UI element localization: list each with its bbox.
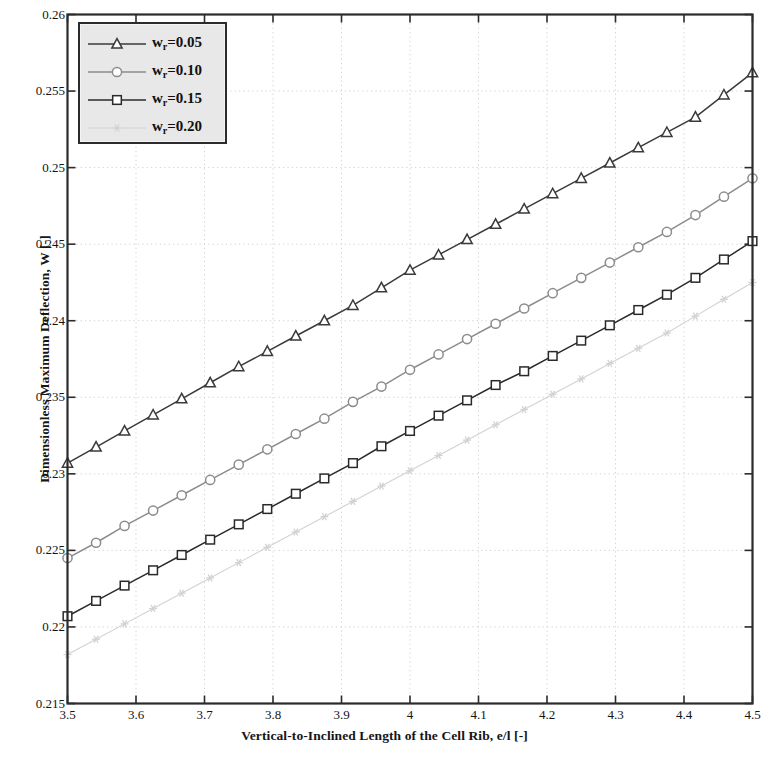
series-w_r=0.15 [63,237,757,621]
data-point-circle [377,382,386,391]
data-point-circle [462,335,471,344]
data-point-circle [434,350,443,359]
legend-label-value: =0.15 [167,90,202,106]
data-point-square [263,505,272,514]
y-tick-label: 0.235 [36,389,65,405]
data-point-star [178,590,186,597]
data-point-square [377,442,386,451]
data-point-circle [491,319,500,328]
data-point-triangle [433,249,443,258]
data-point-square [634,306,643,315]
data-point-triangle [119,426,129,435]
x-tick-label: 4.3 [607,707,623,723]
y-tick-label: 0.22 [42,619,65,635]
data-point-circle [405,365,414,374]
data-point-triangle [405,265,415,274]
x-tick-label: 4.1 [470,707,486,723]
data-point-circle [91,538,100,547]
legend-item-w_r=0.10[interactable]: wr=0.10 [80,58,229,86]
data-point-triangle [548,188,558,197]
data-point-triangle [605,158,615,167]
data-point-triangle [690,112,700,121]
data-point-star [577,375,585,382]
legend: wr=0.05wr=0.10wr=0.15wr=0.20 [78,22,227,144]
x-axis-label: Vertical-to-Inclined Length of the Cell … [0,728,769,744]
data-point-triangle [490,219,500,228]
data-point-star [377,483,385,490]
legend-label-base: w [152,34,163,50]
data-point-triangle [376,282,386,291]
data-point-square [206,535,215,544]
legend-item-w_r=0.15[interactable]: wr=0.15 [80,86,229,114]
data-point-square [548,352,557,361]
data-point-star [520,406,528,413]
data-point-triangle [633,142,643,151]
data-point-star [320,513,328,520]
x-tick-label: 3.6 [128,707,144,723]
data-point-star [121,620,129,627]
data-point-triangle [234,361,244,370]
data-point-circle [634,243,643,252]
data-point-circle [719,192,728,201]
data-point-circle [348,397,357,406]
data-point-square [291,489,300,498]
legend-label: wr=0.15 [152,91,202,108]
data-point-circle [149,506,158,515]
legend-label-base: w [152,118,163,134]
data-point-triangle [91,442,101,451]
data-point-star [92,636,100,643]
data-point-star [463,437,471,444]
legend-label-value: =0.20 [167,118,202,134]
y-tick-label: 0.215 [36,696,65,712]
legend-marker-square-icon [84,89,152,111]
x-tick-label: 3.7 [196,707,212,723]
data-point-circle [234,460,243,469]
legend-marker-circle-icon [84,61,152,83]
data-point-star [634,345,642,352]
data-point-circle [520,304,529,313]
data-point-triangle [576,173,586,182]
legend-label-base: w [152,62,163,78]
legend-label-base: w [152,90,163,106]
y-tick-label: 0.26 [42,7,65,23]
data-point-square [577,336,586,345]
data-point-circle [662,227,671,236]
data-point-circle [263,445,272,454]
data-point-triangle [148,409,158,418]
legend-label: wr=0.20 [152,119,202,136]
y-tick-label: 0.25 [42,160,65,176]
legend-label-value: =0.10 [167,62,202,78]
legend-item-w_r=0.20[interactable]: wr=0.20 [80,114,229,142]
legend-label: wr=0.10 [152,63,202,80]
data-point-star [549,391,557,398]
data-point-star [149,605,157,612]
legend-marker-triangle-icon [84,33,152,55]
y-tick-label: 0.23 [42,466,65,482]
data-point-triangle [262,346,272,355]
data-point-square [406,427,415,436]
data-point-triangle [662,127,672,136]
data-point-star [263,544,271,551]
data-point-circle [206,475,215,484]
legend-item-w_r=0.05[interactable]: wr=0.05 [80,30,229,58]
data-point-star [235,559,243,566]
data-point-triangle [291,331,301,340]
data-point-square [349,459,358,468]
data-point-square [177,551,186,560]
data-point-square [320,474,329,483]
data-point-circle [605,258,614,267]
y-tick-label: 0.225 [36,542,65,558]
legend-label-value: =0.05 [167,34,202,50]
data-point-square [663,290,672,299]
data-point-square [605,321,614,330]
x-tick-label: 4.5 [744,707,760,723]
data-point-square [720,255,729,264]
x-tick-label: 4.2 [539,707,555,723]
data-point-triangle [319,315,329,324]
data-point-triangle [205,377,215,386]
data-point-star [720,296,728,303]
y-tick-label: 0.255 [36,83,65,99]
data-point-circle [577,273,586,282]
data-point-circle [177,491,186,500]
data-point-star [292,529,300,536]
